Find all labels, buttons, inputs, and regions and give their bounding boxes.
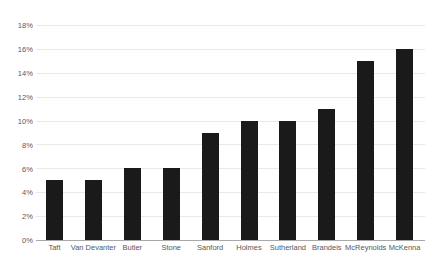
y-axis-tick-label: 12% <box>3 94 33 102</box>
x-axis-tick-label-van-devanter: Van Devanter <box>71 244 116 252</box>
y-axis-tick-label: 18% <box>3 22 33 30</box>
bar-mcreynolds <box>357 61 374 240</box>
bar-taft <box>46 180 63 240</box>
x-axis-tick-label-sanford: Sanford <box>197 244 223 252</box>
y-axis-tick-label: 16% <box>3 46 33 54</box>
bars-layer <box>36 25 425 240</box>
y-axis-tick-label: 10% <box>3 118 33 126</box>
bar-stone <box>163 168 180 240</box>
x-axis-line <box>36 240 425 241</box>
bar-holmes <box>241 121 258 240</box>
bar-mckenna <box>396 49 413 240</box>
bar-sanford <box>202 133 219 241</box>
y-axis-tick-label: 6% <box>3 166 33 174</box>
x-axis-tick-label-mcreynolds: McReynolds <box>345 244 386 252</box>
x-axis: Taft Van Devanter Butler Stone Sanford H… <box>36 244 425 264</box>
x-axis-tick-label-butler: Butler <box>123 244 143 252</box>
y-axis-tick-label: 14% <box>3 70 33 78</box>
y-axis-tick-label: 0% <box>3 237 33 245</box>
bar-brandeis <box>318 109 335 240</box>
bar-chart: 18% 16% 14% 12% 10% 8% 6% 4% 2% 0% Taft <box>0 0 435 266</box>
x-axis-tick-label-brandeis: Brandeis <box>312 244 342 252</box>
x-axis-tick-label-mckenna: McKenna <box>389 244 421 252</box>
bar-van-devanter <box>85 180 102 240</box>
x-axis-tick-label-stone: Stone <box>161 244 181 252</box>
x-axis-tick-label-taft: Taft <box>48 244 60 252</box>
bar-butler <box>124 168 141 240</box>
x-axis-tick-label-holmes: Holmes <box>236 244 261 252</box>
y-axis-tick-label: 2% <box>3 213 33 221</box>
y-axis: 18% 16% 14% 12% 10% 8% 6% 4% 2% 0% <box>0 25 33 240</box>
y-axis-tick-label: 8% <box>3 142 33 150</box>
x-axis-tick-label-sutherland: Sutherland <box>270 244 306 252</box>
bar-sutherland <box>279 121 296 240</box>
y-axis-tick-label: 4% <box>3 189 33 197</box>
